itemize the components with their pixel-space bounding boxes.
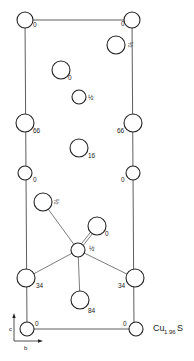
- b-axis-arrowhead-icon: [38, 339, 43, 342]
- atom-height-label: 0: [35, 320, 39, 327]
- c-axis-arrowhead-icon: [12, 313, 15, 318]
- atom-circle: [88, 217, 106, 235]
- atom-height-label: ½: [53, 199, 60, 205]
- atom-circle: [34, 193, 52, 211]
- atom-height-label: 0: [33, 21, 37, 28]
- atom-circle: [126, 166, 140, 180]
- b-axis-label: b: [24, 345, 28, 351]
- atom-height-label: 66: [33, 127, 41, 134]
- atom-circle: [70, 139, 88, 157]
- atom-circle: [107, 36, 125, 54]
- atom-height-label: 0: [123, 320, 127, 327]
- atom-height-label: 34: [36, 282, 44, 289]
- atom-height-label: ½: [89, 245, 95, 252]
- atom-height-label: 66: [117, 127, 125, 134]
- atom-height-label: 0: [121, 20, 125, 27]
- atom-circle: [16, 114, 34, 132]
- atom-circle: [20, 322, 34, 336]
- atom-circle: [124, 12, 140, 28]
- atom-height-label: 0: [105, 230, 109, 237]
- atom-circle: [18, 166, 32, 180]
- atom-height-label: 0: [121, 176, 125, 183]
- atom-height-label: 16: [88, 152, 96, 159]
- atom-height-label: 34: [118, 282, 126, 289]
- formula-label: Cu 1.96 S: [153, 323, 183, 335]
- atom-height-label: 84: [88, 307, 96, 314]
- atom-circle: [124, 114, 142, 132]
- atom-height-label: 0: [68, 74, 72, 81]
- atom-circle: [17, 12, 33, 28]
- crystal-structure-diagram: 00½0½66661600½0½34348400 c b Cu 1.96 S: [0, 0, 194, 361]
- atom-circle: [17, 269, 35, 287]
- formula-base: Cu: [153, 323, 165, 333]
- atom-height-label: ½: [88, 94, 94, 101]
- c-axis-label: c: [9, 326, 12, 332]
- atom-height-label: ½: [127, 42, 134, 48]
- atom-height-label: 0: [33, 176, 37, 183]
- atom-circle: [126, 269, 144, 287]
- atom-circle: [71, 243, 85, 257]
- atom-circle: [71, 291, 89, 309]
- atom-circle: [72, 90, 86, 104]
- formula-suffix: S: [177, 323, 183, 333]
- atom-circle: [129, 322, 143, 336]
- atom-labels: 00½0½66661600½0½34348400: [33, 20, 134, 327]
- formula-subscript: 1.96: [164, 329, 176, 335]
